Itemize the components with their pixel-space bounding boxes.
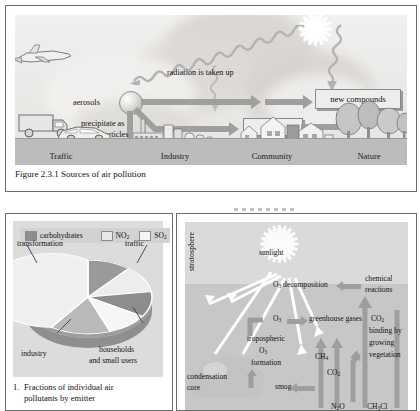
label-co2-bind-4: vegetation	[369, 350, 401, 359]
dotted-separator	[176, 206, 415, 213]
airplane-icon	[15, 43, 75, 67]
figure-illustration: aerosols precipitate as dust particles r…	[15, 15, 407, 165]
pie-callout-households-1: households	[99, 345, 134, 354]
arrowhead-icon	[336, 281, 343, 291]
ground-label-community: Community	[227, 151, 317, 161]
label-ch4: CH4	[315, 352, 328, 362]
ground-label-traffic: Traffic	[23, 151, 99, 161]
label-aerosols: aerosols	[73, 98, 100, 107]
arrow-to-new-compounds	[265, 99, 303, 105]
label-chemical-1: chemical	[365, 274, 392, 283]
label-condensation-1: condensation	[187, 372, 227, 381]
pie-leader-lines	[13, 237, 163, 353]
pie-callout-industry: industry	[21, 349, 47, 358]
pie-callout-transformation: transformation	[17, 239, 63, 248]
label-condensation-2: core	[187, 383, 200, 392]
label-co2-bind-3: growing	[369, 338, 394, 347]
figure-pie-chart-panel: carbohydrates NO2 SO2 transformation tra…	[5, 213, 173, 411]
legend-swatch-no2	[101, 231, 113, 241]
arrow-chemical-to-decomposition	[343, 284, 361, 289]
label-o3-decomposition: O3 decomposition	[273, 280, 328, 290]
arrowhead-icon	[247, 369, 257, 376]
label-radiation-taken-up: radiation is taken up	[167, 68, 234, 77]
label-troposphere-1: tropospheric	[247, 334, 285, 343]
arrowhead-icon	[251, 95, 261, 109]
label-o3: O3	[273, 314, 281, 324]
label-n2o: N2O	[331, 402, 345, 410]
figure-ozone-diagram-panel: stratosphere sunlight	[176, 213, 417, 411]
label-co2-low: CO2	[327, 368, 340, 378]
radiation-wave-icon	[315, 23, 355, 91]
arrowhead-icon	[301, 316, 308, 326]
pie-chart-area: carbohydrates NO2 SO2 transformation tra…	[13, 221, 163, 377]
ozone-diagram: stratosphere sunlight	[185, 222, 408, 410]
figure-sources-of-air-pollution: aerosols precipitate as dust particles r…	[5, 5, 417, 192]
pie-caption-line1: Fractions of individual air	[24, 382, 168, 393]
pie-chart-caption: 1. Fractions of individual air pollutant…	[13, 382, 168, 403]
arrowhead-icon	[290, 383, 297, 393]
legend-label-so2: SO2	[154, 231, 166, 240]
ground-label-industry: Industry	[137, 151, 213, 161]
pie-caption-number: 1.	[13, 382, 19, 393]
ground-label-nature: Nature	[331, 151, 407, 161]
pie-callout-traffic: traffic	[125, 239, 144, 248]
label-co2-bind-2: binding by	[369, 326, 402, 335]
label-smog: smog	[275, 382, 291, 391]
figure-caption: Figure 2.3.1 Sources of air pollution	[15, 169, 146, 179]
arrow-aerosols-right	[141, 99, 251, 105]
label-troposphere-2: O3	[259, 346, 267, 356]
ground-strip: Traffic Industry Community Nature	[15, 138, 407, 165]
pie-caption-line2: pollutants by emitter	[24, 393, 168, 404]
pie-callout-households-2: and small users	[89, 356, 137, 365]
arrow-o3-to-greenhouse	[287, 319, 301, 324]
label-co2-bind-1: CO2	[371, 314, 384, 324]
